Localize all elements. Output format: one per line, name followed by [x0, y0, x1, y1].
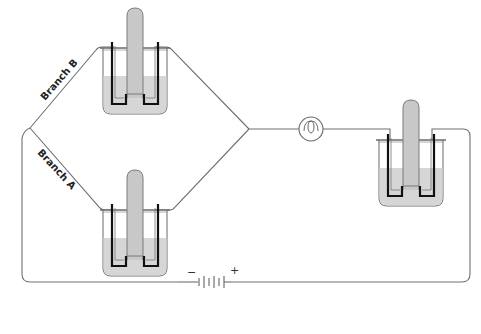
electrolytic-cell-branch-a — [100, 170, 170, 276]
branch-b-label: Branch B — [38, 57, 79, 102]
battery-negative-label: − — [187, 266, 196, 279]
electrolytic-cell-series — [376, 100, 446, 206]
electrolytic-cell-branch-b — [100, 8, 170, 114]
branch-a-label: Branch A — [36, 147, 79, 192]
light-bulb-icon — [299, 117, 323, 141]
circuit-diagram: Branch B Branch A − + — [0, 0, 481, 334]
battery-positive-label: + — [230, 264, 239, 277]
